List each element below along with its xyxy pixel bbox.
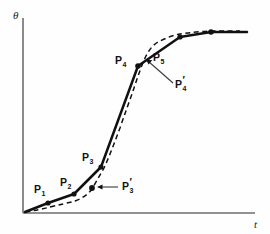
label-p1-subscript: 1 (42, 190, 46, 197)
data-point-p5 (177, 34, 182, 39)
label-p4-prime-base: P (175, 78, 182, 90)
label-p4-base: P (115, 54, 122, 66)
label-p5-base: P (153, 51, 160, 63)
figure-container: θ t P 1 P 2 P 3 P 4 P 5 P 3 ′ P (0, 0, 270, 234)
approximation-polyline (25, 32, 247, 212)
label-p3: P 3 (82, 151, 94, 165)
label-p3-prime-subscript: 3 (130, 187, 134, 194)
label-p3-prime-mark: ′ (130, 177, 133, 188)
label-p5: P 5 (153, 51, 165, 65)
label-p4-prime: P 4 ′ (175, 75, 187, 93)
label-p1-base: P (34, 183, 41, 195)
true-curve-dashed (25, 31, 240, 212)
y-axis-label: θ (13, 9, 19, 21)
label-p3-prime: P 3 ′ (122, 177, 134, 195)
label-p4-prime-subscript: 4 (183, 85, 187, 92)
label-p3-subscript: 3 (90, 158, 94, 165)
p3-prime-arrowhead (97, 185, 103, 190)
x-axis-label: t (254, 218, 258, 230)
label-p3-base: P (82, 151, 89, 163)
label-p4: P 4 (115, 54, 127, 68)
label-p3-prime-base: P (122, 180, 129, 192)
plot-canvas: θ t P 1 P 2 P 3 P 4 P 5 P 3 ′ P (0, 0, 270, 234)
label-p4-subscript: 4 (123, 61, 127, 68)
data-point-p3 (98, 164, 103, 169)
data-point-p6 (208, 29, 214, 35)
data-point-p4 (135, 63, 141, 69)
label-p5-subscript: 5 (161, 58, 165, 65)
label-p2: P 2 (60, 176, 72, 190)
label-p4-prime-mark: ′ (183, 75, 186, 86)
label-p1: P 1 (34, 183, 46, 197)
label-p2-base: P (60, 176, 67, 188)
label-p2-subscript: 2 (68, 183, 72, 190)
data-point-p2 (71, 191, 76, 196)
data-point-p3-prime (89, 185, 95, 191)
data-point-p1 (45, 200, 50, 205)
